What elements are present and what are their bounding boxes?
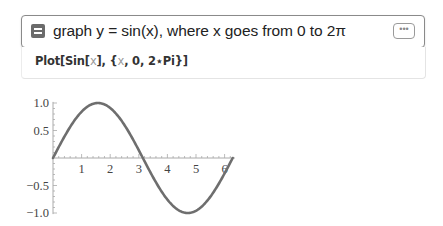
y-tick-label: −1.0 [26, 206, 49, 220]
y-tick-label: 1.0 [33, 96, 49, 110]
x-tick-label: 5 [193, 162, 199, 176]
x-tick-label: 1 [78, 162, 84, 176]
y-tick-label: 0.5 [33, 124, 49, 138]
x-tick-label: 3 [136, 162, 142, 176]
sine-plot: 1234561.00.5−0.5−1.0 [0, 0, 443, 226]
x-tick-label: 4 [164, 162, 171, 176]
y-tick-label: −0.5 [26, 179, 49, 193]
x-tick-label: 2 [107, 162, 113, 176]
plot-axes: 1234561.00.5−0.5−1.0 [26, 96, 235, 220]
